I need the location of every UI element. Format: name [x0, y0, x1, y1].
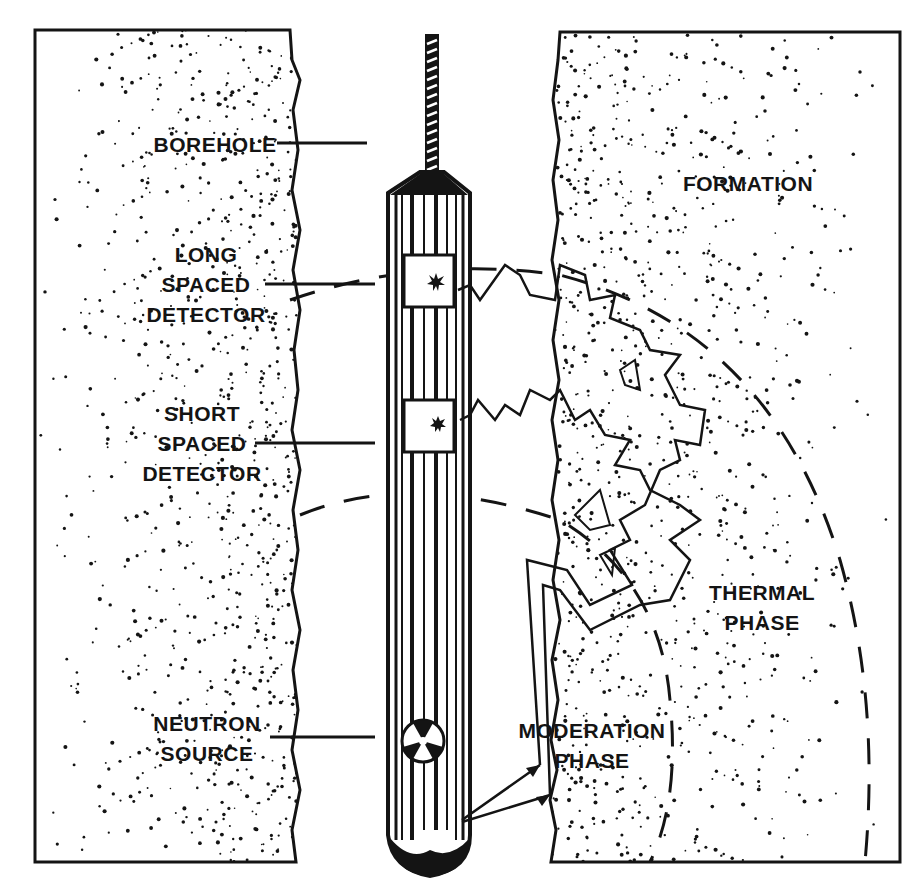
neutron-source	[402, 720, 444, 762]
stipple-dot	[752, 410, 754, 412]
stipple-dot	[86, 405, 88, 407]
stipple-dot	[232, 512, 234, 514]
stipple-dot	[746, 390, 748, 392]
stipple-dot	[278, 834, 280, 836]
stipple-dot	[266, 723, 270, 727]
stipple-dot	[219, 394, 221, 396]
stipple-dot	[142, 392, 145, 395]
stipple-dot	[264, 437, 268, 441]
stipple-dot	[670, 133, 674, 137]
stipple-dot	[664, 298, 666, 300]
stipple-dot	[276, 346, 280, 350]
stipple-dot	[631, 144, 633, 146]
stipple-dot	[160, 340, 164, 344]
stipple-dot	[805, 332, 809, 336]
stipple-dot	[693, 388, 695, 390]
stipple-dot	[558, 116, 562, 120]
stipple-dot	[604, 713, 608, 717]
stipple-dot	[589, 518, 592, 521]
stipple-dot	[612, 128, 615, 131]
stipple-dot	[272, 671, 276, 675]
stipple-dot	[78, 181, 80, 183]
stipple-dot	[734, 542, 737, 545]
stipple-dot	[578, 158, 582, 162]
stipple-dot	[753, 304, 756, 307]
stipple-dot	[113, 290, 116, 293]
stipple-dot	[133, 619, 137, 623]
stipple-dot	[718, 495, 720, 497]
stipple-dot	[59, 448, 61, 450]
stipple-dot	[224, 336, 227, 339]
stipple-dot	[209, 580, 213, 584]
stipple-dot	[266, 250, 268, 252]
stipple-dot	[239, 46, 242, 49]
stipple-dot	[704, 846, 707, 849]
stipple-dot	[785, 56, 789, 60]
stipple-dot	[292, 225, 295, 228]
stipple-dot	[644, 146, 646, 148]
label-line: SOURCE	[161, 742, 254, 765]
stipple-dot	[780, 196, 784, 200]
stipple-dot	[616, 118, 618, 120]
stipple-dot	[236, 680, 240, 684]
stipple-dot	[584, 178, 586, 180]
stipple-dot	[230, 781, 234, 785]
stipple-dot	[649, 673, 652, 676]
stipple-dot	[607, 36, 610, 39]
stipple-dot	[815, 567, 818, 570]
stipple-dot	[263, 483, 267, 487]
stipple-dot	[629, 459, 631, 461]
stipple-dot	[64, 555, 66, 557]
stipple-dot	[752, 573, 755, 576]
stipple-dot	[259, 199, 263, 203]
stipple-dot	[159, 83, 162, 86]
stipple-dot	[586, 548, 590, 552]
stipple-dot	[274, 494, 278, 498]
stipple-dot	[104, 269, 106, 271]
stipple-dot	[239, 208, 242, 211]
stipple-dot	[676, 56, 678, 58]
stipple-dot	[229, 825, 231, 827]
stipple-dot	[560, 289, 562, 291]
stipple-dot	[627, 563, 630, 566]
stipple-dot	[157, 98, 159, 100]
stipple-dot	[718, 519, 722, 523]
stipple-dot	[681, 373, 685, 377]
stipple-dot	[289, 826, 291, 828]
stipple-dot	[770, 730, 773, 733]
stipple-dot	[147, 365, 149, 367]
stipple-dot	[725, 220, 728, 223]
stipple-dot	[715, 385, 718, 388]
stipple-dot	[571, 565, 574, 568]
stipple-dot	[819, 267, 821, 269]
stipple-dot	[268, 202, 271, 205]
stipple-dot	[268, 701, 272, 705]
stipple-dot	[107, 242, 110, 245]
stipple-dot	[186, 544, 189, 547]
stipple-dot	[569, 183, 572, 186]
stipple-dot	[137, 751, 141, 755]
stipple-dot	[588, 63, 591, 66]
stipple-dot	[658, 707, 661, 710]
stipple-dot	[258, 524, 260, 526]
stipple-dot	[593, 263, 597, 267]
stipple-dot	[603, 306, 606, 309]
stipple-dot	[103, 809, 107, 813]
stipple-dot	[263, 372, 266, 375]
stipple-dot	[157, 31, 159, 33]
stipple-dot	[713, 136, 717, 140]
stipple-dot	[641, 280, 645, 284]
stipple-dot	[87, 181, 90, 184]
stipple-dot	[296, 740, 298, 742]
stipple-dot	[635, 230, 638, 233]
stipple-dot	[228, 214, 230, 216]
stipple-dot	[139, 320, 142, 323]
stipple-dot	[196, 52, 198, 54]
stipple-dot	[867, 414, 870, 417]
stipple-dot	[719, 297, 723, 301]
stipple-dot	[161, 372, 163, 374]
stipple-dot	[172, 644, 174, 646]
stipple-dot	[690, 142, 693, 145]
stipple-dot	[584, 190, 588, 194]
stipple-dot	[706, 610, 709, 613]
